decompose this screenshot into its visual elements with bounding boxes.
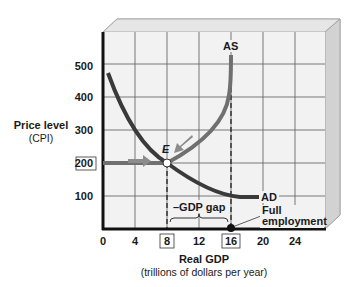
x-tick-8: 8: [164, 235, 170, 247]
label-e: E: [162, 143, 170, 155]
label-gdp-gap: –GDP gap: [173, 201, 226, 213]
x-axis-subtitle: (trillions of dollars per year): [141, 266, 268, 278]
x-tick-20: 20: [257, 235, 269, 247]
full-employment-point: [227, 224, 235, 232]
x-tick-12: 12: [193, 235, 205, 247]
label-ad: AD: [261, 191, 277, 203]
chart-canvas: E –GDP gap AS AD Full employment 100 200…: [0, 0, 354, 287]
label-employment: employment: [262, 215, 327, 227]
y-tick-200: 200: [75, 157, 93, 169]
y-tick-400: 400: [75, 91, 93, 103]
x-axis-title: Real GDP: [179, 253, 229, 265]
box-side-face: [325, 19, 340, 229]
label-as: AS: [223, 40, 238, 52]
x-tick-24: 24: [289, 235, 302, 247]
box-top-face: [103, 19, 340, 32]
equilibrium-point: [163, 159, 171, 167]
y-tick-300: 300: [75, 124, 93, 136]
x-tick-16: 16: [225, 235, 237, 247]
y-tick-100: 100: [75, 190, 93, 202]
y-tick-500: 500: [75, 60, 93, 72]
x-tick-0: 0: [100, 235, 106, 247]
y-axis-subtitle: (CPI): [29, 132, 54, 144]
x-tick-4: 4: [132, 235, 139, 247]
y-axis-title: Price level: [14, 119, 68, 131]
